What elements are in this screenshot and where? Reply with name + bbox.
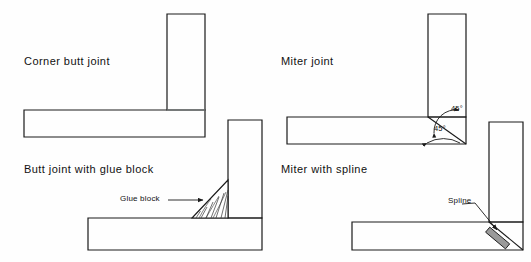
vertical-board (428, 14, 466, 117)
spline-leader-line (475, 203, 497, 230)
caption-butt-joint-with-glue-block: Butt joint with glue block (24, 163, 154, 175)
vertical-board (228, 120, 262, 218)
panel-butt-joint-with-glue-block (88, 120, 262, 250)
label-angle-lower: 45° (434, 124, 446, 133)
caption-corner-butt-joint: Corner butt joint (24, 55, 110, 67)
angle-arc-lower (427, 139, 460, 143)
spline-insert (486, 227, 510, 249)
label-spline: Spline (448, 196, 471, 205)
vertical-board (167, 14, 205, 110)
panel-miter-with-spline (352, 122, 523, 250)
spline-body (486, 227, 510, 249)
joint-diagram-svg (0, 0, 531, 262)
drawing-sheet: Corner butt joint Butt joint with glue b… (0, 0, 531, 262)
caption-miter-with-spline: Miter with spline (281, 163, 368, 175)
panel-corner-butt-joint (24, 14, 205, 137)
vertical-board (489, 122, 523, 222)
label-angle-upper: 45° (451, 104, 463, 113)
horizontal-board (24, 110, 205, 137)
caption-miter-joint: Miter joint (281, 55, 334, 67)
horizontal-board (88, 218, 262, 250)
label-glue-block: Glue block (120, 194, 160, 203)
